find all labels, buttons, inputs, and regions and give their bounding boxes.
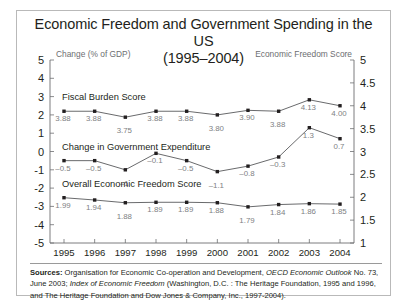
left-axis-tick-label: 1 [38,127,44,139]
figure-container: Economic Freedom and Government Spending… [0,0,407,306]
x-axis-tick-label: 2000 [207,247,228,258]
sources-note: Sources: Organisation for Economic Co-op… [30,263,382,301]
sources-text-1: Organisation for Economic Co-operation a… [63,268,266,277]
data-point-marker [62,159,65,162]
data-point-marker [308,126,311,129]
data-point-label: 1.89 [147,205,163,214]
right-axis-tick-label: 1.5 [360,214,375,226]
data-point-marker [277,203,280,206]
data-point-label: –0.5 [86,164,102,173]
right-axis-tick-label: 3 [360,146,366,158]
data-point-label: 1.88 [117,212,133,221]
data-point-marker [216,113,219,116]
data-point-label: –0.1 [147,156,162,165]
data-point-marker [154,110,157,113]
x-axis-tick-label: 2001 [237,247,258,258]
data-point-marker [338,104,341,107]
left-axis-tick-label: -4 [34,219,44,231]
line-chart: Change (% of GDP)Economic Freedom Score5… [16,46,391,261]
data-point-marker [277,110,280,113]
x-axis-tick-label: 1996 [84,247,105,258]
data-point-marker [62,196,65,199]
series-line [64,100,340,117]
left-axis-tick-label: -5 [34,237,44,249]
data-point-label: 0.7 [334,142,345,151]
data-point-marker [216,170,219,173]
sources-label: Sources: [30,268,63,277]
plot-area: Change (% of GDP)Economic Freedom Score5… [16,46,391,261]
data-point-marker [246,164,249,167]
data-point-label: 1.99 [55,201,71,210]
data-point-marker [124,201,127,204]
right-axis-tick-label: 4.5 [360,77,375,89]
data-point-marker [124,168,127,171]
x-axis-tick-label: 2004 [329,247,351,258]
x-axis-tick-label: 1999 [176,247,197,258]
data-point-label: –0.8 [239,169,255,178]
data-point-marker [216,201,219,204]
data-point-label: 3.88 [55,114,71,123]
data-point-marker [93,110,96,113]
data-point-label: –0.5 [178,164,194,173]
left-axis-tick-label: 5 [38,54,44,66]
x-axis-tick-label: 2002 [268,247,289,258]
data-point-label: –1.1 [209,181,224,190]
right-axis-tick-label: 2 [360,191,366,203]
data-point-label: 4.00 [331,109,347,118]
left-axis-tick-label: -2 [34,182,44,194]
left-axis-tick-label: 4 [38,72,44,84]
data-point-label: –0.3 [270,160,286,169]
sources-italic-1: OECD Economic Outlook [266,268,352,277]
data-point-marker [185,159,188,162]
x-axis-tick-label: 1998 [145,247,166,258]
data-point-marker [185,201,188,204]
x-axis-tick-label: 2003 [299,247,320,258]
right-axis-tick-label: 3.5 [360,123,375,135]
right-axis-caption: Economic Freedom Score [255,49,352,59]
data-point-label: 3.88 [270,120,286,129]
left-axis-tick-label: 3 [38,91,44,103]
data-point-marker [62,110,65,113]
data-point-label: 1.84 [270,208,286,217]
series-name-label: Overall Economic Freedom Score [62,179,202,189]
data-point-marker [338,137,341,140]
data-point-marker [93,198,96,201]
data-point-marker [277,155,280,158]
left-axis-tick-label: 2 [38,109,44,121]
data-point-label: 1.79 [239,216,255,225]
data-point-label: 1.89 [178,205,194,214]
sources-italic-2: Index of Economic Freedom [70,279,165,288]
data-point-marker [308,98,311,101]
data-point-label: 3.88 [147,114,163,123]
left-axis-tick-label: -3 [34,200,44,212]
data-point-label: 1.94 [86,203,102,212]
data-point-marker [93,159,96,162]
data-point-marker [124,115,127,118]
left-axis-tick-label: 0 [38,146,44,158]
data-point-label: 1.3 [303,131,315,140]
data-point-marker [246,109,249,112]
data-point-label: 1.88 [209,206,225,215]
series-name-label: Fiscal Burden Score [62,92,146,102]
right-axis-tick-label: 1 [360,237,366,249]
chart-title-line1: Economic Freedom and Government Spending… [35,16,373,49]
right-axis-tick-label: 2.5 [360,168,375,180]
data-point-marker [308,202,311,205]
series-name-label: Change in Government Expenditure [62,142,210,152]
series-line [64,198,340,207]
data-point-marker [338,202,341,205]
data-point-label: 3.88 [86,114,102,123]
data-point-marker [154,201,157,204]
data-point-label: –0.5 [55,164,71,173]
data-point-label: 3.88 [178,114,194,123]
data-point-marker [246,205,249,208]
left-axis-tick-label: -1 [34,164,44,176]
data-point-label: 1.86 [301,207,317,216]
data-point-label: 1.85 [331,207,347,216]
data-point-label: 3.90 [239,113,255,122]
right-axis-tick-label: 4 [360,100,366,112]
data-point-marker [185,110,188,113]
data-point-label: 3.75 [117,126,133,135]
data-point-label: 3.80 [209,124,225,133]
data-point-label: 4.13 [301,103,317,112]
